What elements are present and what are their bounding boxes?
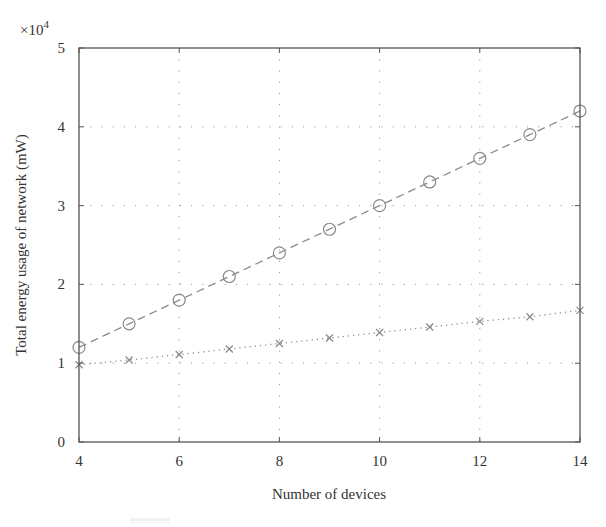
axis-ticks [79,48,580,442]
y-multiplier-label: ×104 [20,18,49,38]
y-tick-label: 5 [58,40,66,56]
x-marker [526,313,533,320]
y-tick-label: 2 [58,276,66,292]
x-tick-label: 12 [472,453,487,469]
x-tick-label: 10 [372,453,387,469]
x-marker [326,334,333,341]
y-tick-label: 0 [58,434,66,450]
data-series [73,105,586,368]
x-tick-label: 14 [573,453,589,469]
series-cross-dotted [76,307,584,368]
y-axis-title: Total energy usage of network (mW) [13,134,30,356]
y-tick-label: 1 [58,355,66,371]
circle-marker [424,176,436,188]
chart: 468101214 012345 ×104 Number of devices … [0,0,606,527]
grid-lines [79,48,580,442]
y-tick-labels: 012345 [58,40,66,450]
x-marker [176,351,183,358]
circle-marker [223,271,235,283]
series-circle-dashed [73,105,586,353]
y-tick-label: 3 [58,198,66,214]
cropped-caption-fragment [130,518,170,524]
x-marker [426,323,433,330]
x-marker [376,329,383,336]
x-tick-label: 6 [175,453,183,469]
x-tick-labels: 468101214 [75,453,588,469]
x-tick-label: 4 [75,453,83,469]
y-tick-label: 4 [58,119,66,135]
x-axis-title: Number of devices [272,486,386,502]
plot-frame [79,48,580,442]
x-marker [226,346,233,353]
x-tick-label: 8 [276,453,284,469]
